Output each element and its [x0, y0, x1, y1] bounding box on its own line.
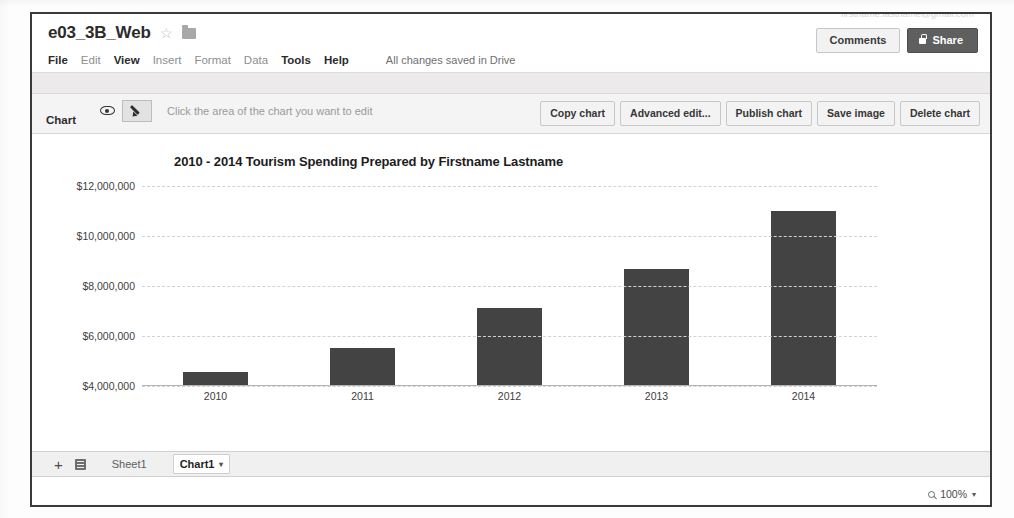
share-button[interactable]: Share: [907, 28, 978, 53]
save-status-text: All changes saved in Drive: [386, 54, 516, 66]
magnifier-icon: [928, 491, 935, 498]
chart-toolbar-label: Chart: [46, 114, 76, 126]
chart-edit-toolbar: Chart Click the area of the chart you wa…: [32, 94, 990, 134]
bar-2010[interactable]: [183, 372, 248, 386]
chart-canvas[interactable]: 2010 - 2014 Tourism Spending Prepared by…: [32, 134, 990, 450]
chart-title[interactable]: 2010 - 2014 Tourism Spending Prepared by…: [174, 154, 563, 169]
gridline: [142, 336, 877, 337]
menu-item-edit[interactable]: Edit: [81, 54, 101, 66]
chart-edit-hint: Click the area of the chart you want to …: [167, 105, 372, 117]
comments-button[interactable]: Comments: [816, 28, 901, 53]
y-axis-tick-label: $10,000,000: [43, 230, 135, 242]
app-header: e03_3B_Web ☆ File Edit View Insert Forma…: [32, 14, 990, 72]
gridline: [142, 236, 877, 237]
eye-icon: [100, 106, 115, 115]
pencil-icon: [131, 104, 144, 117]
x-axis-label-2013: 2013: [583, 390, 730, 402]
header-divider-band: [32, 72, 990, 94]
y-axis-tick-label: $8,000,000: [43, 280, 135, 292]
spreadsheet-app-window: e03_3B_Web ☆ File Edit View Insert Forma…: [30, 12, 992, 507]
chart-plot-area[interactable]: $12,000,000$10,000,000$8,000,000$6,000,0…: [142, 186, 877, 386]
y-axis-tick-label: $6,000,000: [43, 330, 135, 342]
edit-mode-button[interactable]: [122, 100, 152, 122]
page-title[interactable]: e03_3B_Web: [48, 23, 151, 43]
y-axis-tick-label: $12,000,000: [43, 180, 135, 192]
menu-item-help[interactable]: Help: [324, 54, 349, 66]
menu-item-insert[interactable]: Insert: [153, 54, 182, 66]
header-button-group: Comments Share: [816, 28, 978, 53]
x-axis-label-2012: 2012: [436, 390, 583, 402]
bar-2012[interactable]: [477, 308, 542, 386]
zoom-level-label: 100%: [940, 488, 967, 500]
gridline: [142, 186, 877, 187]
gridline: [142, 286, 877, 287]
account-email[interactable]: firstname.lastname@gmail.com: [841, 12, 974, 20]
zoom-chevron-down-icon[interactable]: ▾: [972, 490, 976, 499]
sheet-tab-bar: + Sheet1 Chart1 ▾: [32, 451, 990, 477]
sheet-tab-sheet1[interactable]: Sheet1: [106, 455, 153, 473]
advanced-edit-button[interactable]: Advanced edit...: [620, 101, 721, 126]
sheet-tab-chart1-label: Chart1: [180, 458, 215, 470]
preview-mode-button[interactable]: [92, 100, 122, 122]
x-axis-label-2014: 2014: [730, 390, 877, 402]
chart-action-buttons: Copy chart Advanced edit... Publish char…: [540, 101, 980, 126]
save-image-button[interactable]: Save image: [817, 101, 895, 126]
menu-item-view[interactable]: View: [114, 54, 140, 66]
menu-bar: File Edit View Insert Format Data Tools …: [48, 51, 990, 69]
star-outline-icon[interactable]: ☆: [160, 26, 173, 40]
x-axis-label-2011: 2011: [289, 390, 436, 402]
add-sheet-button[interactable]: +: [54, 457, 63, 472]
chart-mode-icon-group: [92, 100, 152, 122]
delete-chart-button[interactable]: Delete chart: [900, 101, 980, 126]
menu-item-format[interactable]: Format: [194, 54, 230, 66]
share-button-label: Share: [932, 35, 963, 46]
chevron-down-icon[interactable]: ▾: [219, 460, 223, 469]
x-axis-label-2010: 2010: [142, 390, 289, 402]
folder-icon[interactable]: [182, 28, 196, 39]
status-bar: 100% ▾: [32, 477, 990, 505]
bar-2011[interactable]: [330, 348, 395, 386]
y-axis-tick-label: $4,000,000: [43, 380, 135, 392]
publish-chart-button[interactable]: Publish chart: [726, 101, 813, 126]
zoom-control[interactable]: 100% ▾: [928, 488, 976, 500]
menu-item-file[interactable]: File: [48, 54, 68, 66]
copy-chart-button[interactable]: Copy chart: [540, 101, 615, 126]
menu-item-data[interactable]: Data: [244, 54, 268, 66]
all-sheets-icon[interactable]: [75, 459, 86, 470]
lock-icon: [919, 38, 926, 44]
x-axis-tick-labels: 20102011201220132014: [142, 390, 877, 402]
gridline: [142, 386, 877, 387]
bar-2014[interactable]: [771, 211, 836, 386]
sheet-tab-chart1[interactable]: Chart1 ▾: [173, 454, 231, 474]
header-right-cluster: firstname.lastname@gmail.com Comments Sh…: [816, 14, 978, 53]
menu-item-tools[interactable]: Tools: [281, 54, 311, 66]
screenshot-root: e03_3B_Web ☆ File Edit View Insert Forma…: [0, 0, 1014, 518]
